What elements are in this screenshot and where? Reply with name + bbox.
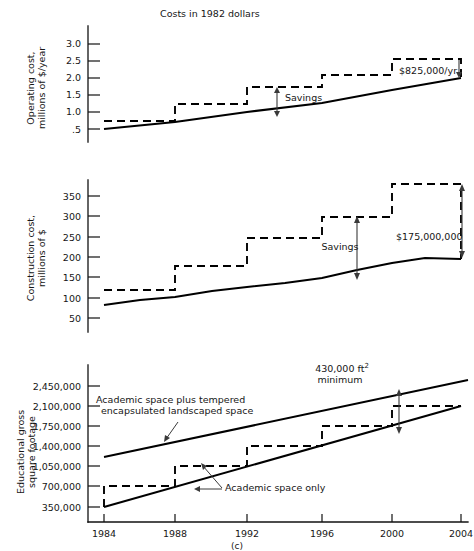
xtick-1992: 1992 <box>235 528 259 539</box>
panel2-ytick-350: 350 <box>63 191 81 202</box>
panel3-academic-only-label: Academic space only <box>225 482 326 493</box>
panel3-ytick-2450000: 2,450,000 <box>33 381 81 392</box>
panel1-saving-value-label: $825,000/yr <box>399 65 457 76</box>
panel3-ytick-2100000: 2,100,000 <box>33 401 81 412</box>
panel1-y-axis-title-line2: millions of $/year <box>36 47 47 129</box>
panel3-minimum-value: 430,000 ft <box>315 363 364 374</box>
panel3-academic-only-leader-lower <box>194 486 222 492</box>
xtick-1984: 1984 <box>92 528 116 539</box>
panel1-ytick-1-0: 1.0 <box>66 106 81 117</box>
panel-operating-cost: Operating cost, millions of $/year 3.0 2… <box>25 26 462 142</box>
panel1-y-axis-title: Operating cost, millions of $/year <box>25 47 47 129</box>
panel2-y-axis-title: Construction cost, millions of $ <box>25 215 47 301</box>
xtick-2004: 2004 <box>449 528 473 539</box>
panel3-minimum-superscript: 2 <box>364 362 368 370</box>
panel2-ytick-50: 50 <box>69 313 81 324</box>
three-panel-cost-chart: Costs in 1982 dollars Operating cost, mi… <box>0 0 474 551</box>
panel3-minimum-arrow <box>396 389 402 434</box>
svg-text:430,000 ft2: 430,000 ft2 <box>315 362 369 374</box>
panel1-ytick-0-5: .5 <box>72 124 81 135</box>
panel2-savings-label: Savings <box>321 241 358 252</box>
figure-title: Costs in 1982 dollars <box>160 8 260 19</box>
panel3-ytick-350000: 350,000 <box>42 502 81 513</box>
panel1-ytick-2-0: 2.0 <box>66 72 81 83</box>
panel3-academic-plus-label-line2: encapsulated landscaped space <box>101 405 253 416</box>
panel1-ytick-2-5: 2.5 <box>66 55 81 66</box>
panel3-x-ticks <box>104 514 461 522</box>
panel2-y-ticks <box>88 196 100 318</box>
panel1-y-ticks <box>88 44 100 129</box>
panel3-academic-plus-label-line1: Academic space plus tempered <box>96 394 245 405</box>
panel1-savings-label: Savings <box>285 92 322 103</box>
panel2-ytick-300: 300 <box>63 211 81 222</box>
figure-container: Costs in 1982 dollars Operating cost, mi… <box>0 0 474 551</box>
panel3-ytick-1400000: 1,400,000 <box>33 441 81 452</box>
panel2-ytick-100: 100 <box>63 293 81 304</box>
panel-construction-cost: Construction cost, millions of $ 350 300… <box>25 180 465 332</box>
figure-caption: (c) <box>231 541 243 551</box>
panel3-y-axis-title-line1: Educational gross <box>15 410 26 494</box>
panel2-saving-value-label: $175,000,000 <box>396 231 462 242</box>
panel1-ytick-1-5: 1.5 <box>66 89 81 100</box>
panel2-y-axis-title-line2: millions of $ <box>36 229 47 287</box>
panel3-minimum-label: 430,000 ft2 minimum <box>315 362 369 385</box>
panel2-y-axis-title-line1: Construction cost, <box>25 215 36 301</box>
xtick-1996: 1996 <box>310 528 334 539</box>
panel3-academic-plus-leader <box>164 422 178 442</box>
panel1-ytick-3-0: 3.0 <box>66 38 81 49</box>
panel1-y-axis-title-line1: Operating cost, <box>25 51 36 124</box>
panel3-ytick-700000: 700,000 <box>42 481 81 492</box>
panel2-ytick-250: 250 <box>63 232 81 243</box>
panel2-construction-cost-series <box>104 258 461 305</box>
panel3-ytick-1050000: 1,050,000 <box>33 461 81 472</box>
panel-educational-square-footage: Educational gross square footage 2,450,0… <box>15 362 473 539</box>
panel2-ytick-200: 200 <box>63 252 81 263</box>
panel3-minimum-word: minimum <box>317 374 362 385</box>
panel2-saving-value-arrow <box>459 184 465 258</box>
panel3-ytick-1750000: 1,750,000 <box>33 421 81 432</box>
panel1-savings-arrow <box>274 87 280 117</box>
xtick-2000: 2000 <box>380 528 404 539</box>
panel2-ytick-150: 150 <box>63 272 81 283</box>
xtick-1988: 1988 <box>163 528 187 539</box>
